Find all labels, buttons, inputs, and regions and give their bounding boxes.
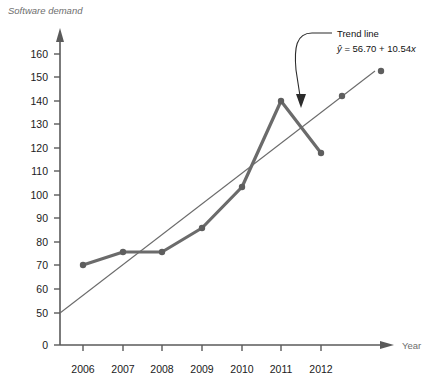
trend-line-callout-leader [295,33,332,108]
data-point-2009 [199,225,205,231]
y-tick-label: 100 [30,189,48,201]
data-point-2012 [318,150,324,156]
y-tick-label: 130 [30,118,48,130]
callout-equation-x: x [410,43,417,54]
software-demand-line-chart: 0 50 60 70 80 90 100 110 120 130 140 150… [0,0,439,388]
x-tick-label: 2008 [150,363,174,375]
y-tick-label: 110 [31,165,48,177]
trend-line-callout-text: Trend line ŷ = 56.70 + 10.54x [336,28,417,54]
y-tick-label: 60 [36,283,48,295]
x-axis-title: Year [402,340,421,351]
x-axis-tick-labels: 2006 2007 2008 2009 2010 2011 2012 [71,363,333,375]
y-tick-label: 160 [30,48,48,60]
y-axis-ticks [54,54,60,345]
x-axis-ticks [83,345,321,351]
x-tick-label: 2009 [190,363,214,375]
y-axis-tick-labels: 0 50 60 70 80 90 100 110 120 130 140 150… [30,48,48,351]
y-tick-label: 140 [30,95,48,107]
y-tick-label: 0 [42,339,48,351]
x-axis [60,341,394,349]
callout-title: Trend line [337,28,379,39]
callout-equation: ŷ = 56.70 + 10.54x [336,43,417,54]
data-point-markers [80,98,324,268]
data-point-2008 [159,249,165,255]
x-tick-label: 2006 [71,363,95,375]
x-tick-label: 2012 [309,363,333,375]
forecast-point-2013 [339,93,345,99]
data-series-line [83,101,321,265]
x-tick-label: 2007 [111,363,135,375]
y-tick-label: 90 [36,212,48,224]
y-tick-label: 70 [36,259,48,271]
y-tick-label: 150 [30,71,48,83]
data-point-2010 [239,184,245,190]
forecast-point-markers [339,68,384,99]
forecast-point-2014 [378,68,384,74]
x-tick-label: 2011 [270,363,293,375]
callout-equation-body: = 56.70 + 10.54 [342,43,411,54]
y-axis-title: Software demand [8,5,83,16]
chart-container: 0 50 60 70 80 90 100 110 120 130 140 150… [0,0,439,388]
x-tick-label: 2010 [230,363,254,375]
y-tick-label: 50 [36,307,48,319]
y-axis [56,28,64,345]
data-point-2011 [278,98,284,104]
y-tick-label: 120 [30,142,48,154]
trend-line [60,71,375,313]
y-tick-label: 80 [36,236,48,248]
data-point-2006 [80,262,86,268]
data-point-2007 [120,249,126,255]
